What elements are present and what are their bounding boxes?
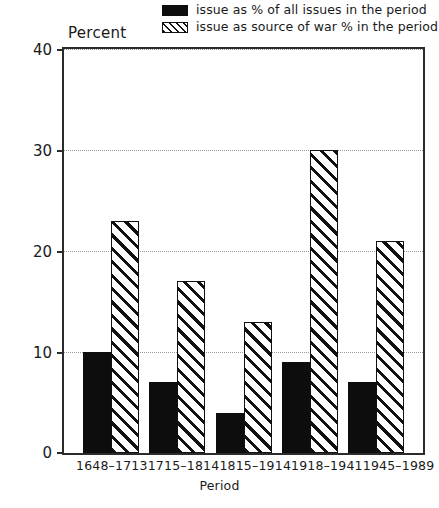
x-axis-tick-label: 1648–1713 [76, 458, 148, 476]
bar [177, 281, 205, 453]
ytick-label-10: 10 [33, 344, 52, 362]
bar [111, 221, 139, 453]
x-axis-tick-label: 1918–1941 [291, 458, 363, 476]
bar [244, 322, 272, 453]
ytick-label-40: 40 [33, 41, 52, 59]
legend-label-source-of-war: issue as source of war % in the period [196, 20, 438, 34]
ytick-label-0: 0 [42, 444, 52, 462]
chart-legend: issue as % of all issues in the period i… [162, 2, 434, 36]
x-axis-tick-label: 1945–1989 [363, 458, 435, 476]
bar [282, 362, 310, 453]
ytick-label-30: 30 [33, 142, 52, 160]
x-axis-tick-label: 1715–1814 [148, 458, 220, 476]
bar-group [343, 49, 409, 453]
bar-group [210, 49, 276, 453]
x-axis-tick-label: 1815–1914 [219, 458, 291, 476]
ytick-mark-20 [57, 251, 64, 253]
y-axis-title: Percent [68, 24, 127, 42]
ytick-mark-40 [57, 49, 64, 51]
bar-group [78, 49, 144, 453]
ytick-mark-30 [57, 150, 64, 152]
legend-label-all-issues: issue as % of all issues in the period [196, 3, 427, 17]
ytick-mark-0 [57, 452, 64, 454]
legend-item-source-of-war: issue as source of war % in the period [162, 19, 434, 35]
x-axis-title: Period [0, 478, 439, 493]
bar [376, 241, 404, 453]
bar-group [144, 49, 210, 453]
bar [149, 382, 177, 453]
ytick-mark-10 [57, 352, 64, 354]
bar-group [277, 49, 343, 453]
legend-hatched-swatch-icon [162, 22, 188, 33]
plot-area: 40 30 20 10 0 [62, 47, 425, 455]
ytick-label-20: 20 [33, 243, 52, 261]
bar [83, 352, 111, 453]
bar [310, 150, 338, 453]
bar-chart-figure: issue as % of all issues in the period i… [0, 0, 439, 508]
legend-solid-swatch-icon [162, 5, 188, 16]
bar [348, 382, 376, 453]
x-axis-tick-labels: 1648–17131715–18141815–19141918–19411945… [62, 458, 425, 476]
legend-item-all-issues: issue as % of all issues in the period [162, 2, 434, 18]
bar [216, 413, 244, 453]
bar-groups [64, 49, 423, 453]
